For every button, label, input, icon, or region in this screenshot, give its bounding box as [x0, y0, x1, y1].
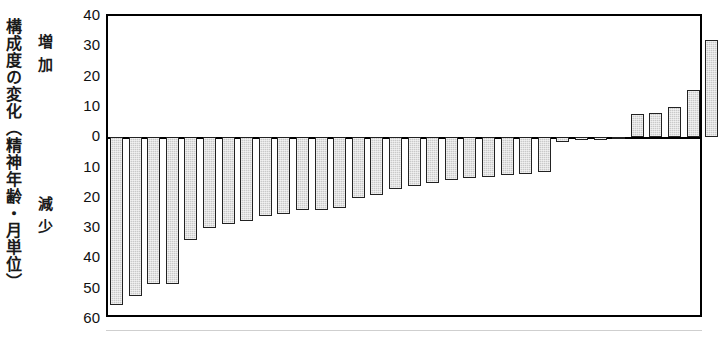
- bar: [277, 137, 290, 214]
- bar: [519, 137, 532, 173]
- bar: [463, 137, 476, 178]
- bar: [594, 137, 607, 140]
- bar: [631, 114, 644, 137]
- figure-bottom-rule: [106, 330, 702, 331]
- bar: [166, 137, 179, 284]
- bar: [538, 137, 551, 172]
- bar: [333, 137, 346, 208]
- bar: [687, 90, 700, 137]
- y-tick-label: 40: [52, 248, 100, 265]
- bar: [649, 113, 662, 137]
- bar: [389, 137, 402, 189]
- bar: [129, 137, 142, 296]
- bar: [482, 137, 495, 176]
- bar: [222, 137, 235, 223]
- bar: [259, 137, 272, 216]
- bar: [705, 40, 718, 137]
- y-tick-label: 20: [52, 66, 100, 83]
- y-tick-label: 40: [52, 6, 100, 23]
- bar: [370, 137, 383, 195]
- bar: [556, 137, 569, 142]
- bar: [240, 137, 253, 220]
- y-tick-label: 30: [52, 218, 100, 235]
- bar: [352, 137, 365, 198]
- y-tick-label: 30: [52, 36, 100, 53]
- y-tick-label: 60: [52, 309, 100, 326]
- plot-frame: [106, 14, 702, 317]
- bar: [296, 137, 309, 210]
- y-tick-label: 10: [52, 157, 100, 174]
- bar: [147, 137, 160, 284]
- y-tick-label: 10: [52, 96, 100, 113]
- bar: [501, 137, 514, 175]
- bar: [575, 137, 588, 140]
- y-tick-label: 0: [52, 127, 100, 144]
- bar: [612, 137, 625, 139]
- y-tick-label: 50: [52, 278, 100, 295]
- y-tick-label: 20: [52, 187, 100, 204]
- bar: [445, 137, 458, 179]
- bar: [315, 137, 328, 210]
- bar: [426, 137, 439, 182]
- bar: [110, 137, 123, 305]
- bar: [184, 137, 197, 240]
- plot-area: [108, 16, 700, 315]
- bar: [668, 107, 681, 137]
- bar: [408, 137, 421, 185]
- bar: [203, 137, 216, 228]
